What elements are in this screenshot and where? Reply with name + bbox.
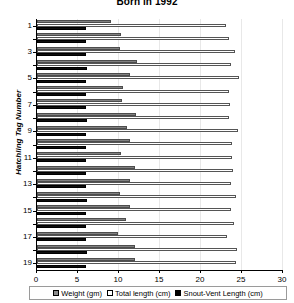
y-tick-mark bbox=[33, 211, 36, 212]
bar-snout-vent bbox=[37, 172, 86, 175]
chart-container: Born in 1992 Hatchling Tag Number 051015… bbox=[0, 0, 294, 303]
y-tick-label: 3 bbox=[20, 47, 32, 56]
bar-group bbox=[37, 111, 283, 124]
bar-group bbox=[37, 85, 283, 98]
legend-swatch-icon bbox=[53, 290, 59, 296]
bar-group bbox=[37, 98, 283, 111]
bar-snout-vent bbox=[37, 27, 86, 30]
y-tick-label: 5 bbox=[20, 73, 32, 82]
bar-group bbox=[37, 19, 283, 32]
x-tick-mark bbox=[282, 270, 283, 273]
chart-legend: Weight (gm)Total length (cm)Snout-Vent L… bbox=[29, 286, 287, 300]
x-tick-mark bbox=[36, 270, 37, 273]
x-tick-mark bbox=[159, 270, 160, 273]
bar-snout-vent bbox=[37, 185, 86, 188]
x-tick-label: 0 bbox=[26, 275, 46, 284]
bar-snout-vent bbox=[37, 119, 87, 122]
y-tick-mark bbox=[33, 105, 36, 106]
y-tick-mark bbox=[33, 78, 36, 79]
legend-label: Weight (gm) bbox=[61, 289, 102, 298]
bar-group bbox=[37, 230, 283, 243]
y-tick-mark bbox=[33, 52, 36, 53]
y-tick-mark bbox=[33, 171, 36, 172]
x-tick-mark bbox=[118, 270, 119, 273]
y-tick-label: 17 bbox=[20, 232, 32, 241]
bar-snout-vent bbox=[37, 199, 87, 202]
bar-snout-vent bbox=[37, 53, 86, 56]
y-tick-mark bbox=[33, 237, 36, 238]
bar-snout-vent bbox=[37, 159, 86, 162]
bar-snout-vent bbox=[37, 265, 86, 268]
x-tick-mark bbox=[241, 270, 242, 273]
bar-group bbox=[37, 204, 283, 217]
y-tick-mark bbox=[33, 184, 36, 185]
x-tick-mark bbox=[200, 270, 201, 273]
y-tick-label: 19 bbox=[20, 258, 32, 267]
bar-group bbox=[37, 32, 283, 45]
bar-group bbox=[37, 125, 283, 138]
chart-title: Born in 1992 bbox=[0, 0, 294, 7]
x-tick-mark bbox=[77, 270, 78, 273]
bar-snout-vent bbox=[37, 40, 86, 43]
y-tick-mark bbox=[33, 39, 36, 40]
legend-swatch-icon bbox=[107, 290, 113, 296]
bar-group bbox=[37, 244, 283, 257]
bar-group bbox=[37, 72, 283, 85]
bar-snout-vent bbox=[37, 251, 87, 254]
y-tick-mark bbox=[33, 197, 36, 198]
legend-label: Total length (cm) bbox=[115, 289, 170, 298]
bar-group bbox=[37, 164, 283, 177]
bar-group bbox=[37, 257, 283, 270]
y-tick-label: 1 bbox=[20, 21, 32, 30]
y-tick-label: 15 bbox=[20, 206, 32, 215]
bar-group bbox=[37, 151, 283, 164]
bar-group bbox=[37, 217, 283, 230]
y-tick-mark bbox=[33, 65, 36, 66]
y-tick-mark bbox=[33, 145, 36, 146]
plot-area: 051015202530 135791113151719 bbox=[36, 19, 282, 270]
y-tick-mark bbox=[33, 250, 36, 251]
bar-snout-vent bbox=[37, 133, 86, 136]
legend-item[interactable]: Total length (cm) bbox=[107, 289, 170, 298]
bar-snout-vent bbox=[37, 212, 86, 215]
y-tick-label: 7 bbox=[20, 100, 32, 109]
bar-snout-vent bbox=[37, 225, 86, 228]
x-tick-label: 30 bbox=[272, 275, 292, 284]
x-tick-label: 10 bbox=[108, 275, 128, 284]
y-tick-mark bbox=[33, 263, 36, 264]
bar-group bbox=[37, 191, 283, 204]
y-tick-mark bbox=[33, 26, 36, 27]
x-tick-label: 5 bbox=[67, 275, 87, 284]
x-tick-label: 15 bbox=[149, 275, 169, 284]
bar-snout-vent bbox=[37, 93, 86, 96]
y-tick-mark bbox=[33, 224, 36, 225]
bar-snout-vent bbox=[37, 67, 87, 70]
bar-group bbox=[37, 59, 283, 72]
y-tick-mark bbox=[33, 131, 36, 132]
y-tick-mark bbox=[33, 118, 36, 119]
legend-item[interactable]: Weight (gm) bbox=[53, 289, 102, 298]
y-tick-label: 11 bbox=[20, 153, 32, 162]
bar-snout-vent bbox=[37, 238, 86, 241]
bar-group bbox=[37, 138, 283, 151]
y-tick-label: 9 bbox=[20, 126, 32, 135]
legend-label: Snout-Vent Length (cm) bbox=[183, 289, 262, 298]
bar-group bbox=[37, 45, 283, 58]
x-tick-label: 25 bbox=[231, 275, 251, 284]
x-tick-label: 20 bbox=[190, 275, 210, 284]
legend-item[interactable]: Snout-Vent Length (cm) bbox=[175, 289, 262, 298]
y-tick-label: 13 bbox=[20, 179, 32, 188]
bar-snout-vent bbox=[37, 80, 86, 83]
y-tick-mark bbox=[33, 92, 36, 93]
bar-snout-vent bbox=[37, 106, 86, 109]
bar-group bbox=[37, 178, 283, 191]
bar-snout-vent bbox=[37, 146, 86, 149]
legend-swatch-icon bbox=[175, 290, 181, 296]
y-tick-mark bbox=[33, 158, 36, 159]
